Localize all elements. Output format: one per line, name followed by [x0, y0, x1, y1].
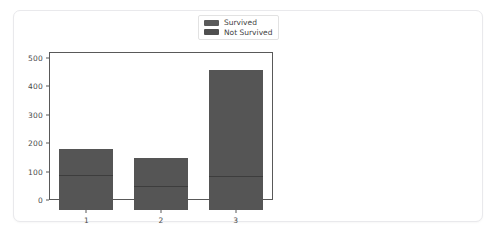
bar [134, 62, 188, 210]
bar [59, 62, 113, 210]
x-axis-tick-mark [161, 210, 162, 213]
x-axis-tick-mark [235, 210, 236, 213]
y-axis-tick-mark [46, 200, 49, 201]
plot-frame: 0100200300400500 123 [49, 52, 273, 210]
bar-segment-survived [209, 176, 263, 210]
y-axis-tick-mark [46, 86, 49, 87]
x-axis-tick-mark [86, 210, 87, 213]
chart-card: 0100200300400500 123 SurvivedNot Survive… [13, 10, 483, 222]
y-axis-tick-mark [46, 171, 49, 172]
legend-entry: Survived [204, 19, 272, 27]
y-axis-tick-mark [46, 143, 49, 144]
chart-legend: SurvivedNot Survived [198, 15, 279, 40]
y-axis-tick-mark [46, 114, 49, 115]
y-axis-tick-mark [46, 57, 49, 58]
bar-segment-survived [134, 186, 188, 210]
legend-label: Not Survived [224, 29, 272, 37]
legend-entry: Not Survived [204, 29, 272, 37]
legend-swatch [204, 20, 219, 26]
bar [209, 62, 263, 210]
bar-chart-figure: 0100200300400500 123 SurvivedNot Survive… [14, 11, 484, 223]
legend-label: Survived [224, 19, 257, 27]
bar-segment-survived [59, 175, 113, 210]
legend-swatch [204, 29, 219, 35]
